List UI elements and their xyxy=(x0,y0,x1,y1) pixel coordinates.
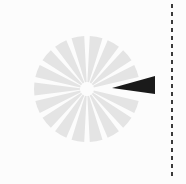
figure-background xyxy=(0,0,186,184)
radial-sector-diagram xyxy=(0,0,186,184)
figure-root: Radial pinwheel diagram with one highlig… xyxy=(0,0,186,184)
